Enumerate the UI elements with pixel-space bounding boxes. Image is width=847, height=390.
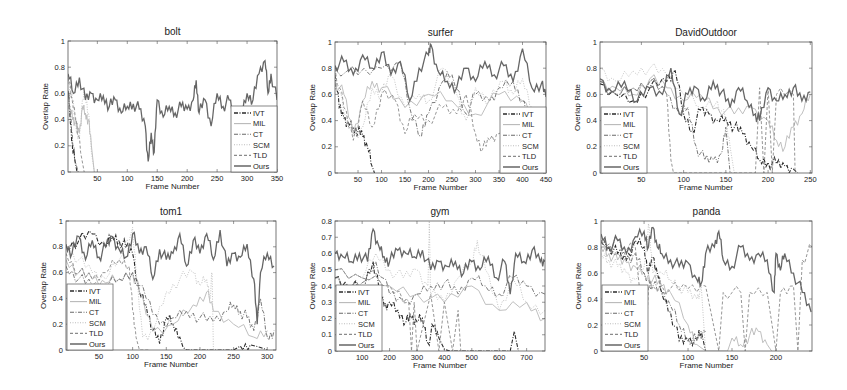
chart-panel-davidoutdoor: DavidOutdoor5010015020025000.20.40.60.81… xyxy=(573,27,817,192)
y-tick-label: 0 xyxy=(328,169,332,178)
x-tick-label: 400 xyxy=(516,175,529,184)
legend-label-scm: SCM xyxy=(253,141,270,150)
y-tick-label: 1 xyxy=(594,217,598,226)
y-axis-label: Overlap Rate xyxy=(574,262,583,310)
x-tick-label: 350 xyxy=(271,174,284,183)
legend: IVTMILCTSCMTLDOurs xyxy=(231,106,277,172)
y-tick-label: 0.8 xyxy=(322,64,332,73)
y-tick-label: 0 xyxy=(328,347,332,356)
legend-label-ivt: IVT xyxy=(89,287,101,296)
y-tick-label: 0.6 xyxy=(587,90,597,99)
x-axis-label: Frame Number xyxy=(144,360,198,369)
y-axis-label: Overlap Rate xyxy=(308,83,317,131)
legend-label-ct: CT xyxy=(522,131,532,140)
legend-label-ivt: IVT xyxy=(358,288,370,297)
y-tick-label: 0.6 xyxy=(588,269,598,278)
x-tick-label: 300 xyxy=(469,175,482,184)
legend-label-tld: TLD xyxy=(624,330,639,339)
x-axis-label: Frame Number xyxy=(680,361,734,370)
x-axis-label: Frame Number xyxy=(413,361,467,370)
y-tick-label: 0.2 xyxy=(322,314,332,323)
y-axis-label: Overlap Rate xyxy=(573,83,582,131)
legend-label-ours: Ours xyxy=(624,341,641,350)
chart-panel-surfer: surfer5010015020025030035040045000.20.40… xyxy=(308,27,552,192)
series-line-tld xyxy=(335,68,527,152)
chart-title: bolt xyxy=(164,26,180,37)
x-axis-label: Frame Number xyxy=(679,183,733,192)
x-tick-label: 350 xyxy=(493,175,506,184)
y-tick-label: 0 xyxy=(59,346,63,355)
y-tick-label: 0.3 xyxy=(322,298,332,307)
legend-label-scm: SCM xyxy=(358,320,375,329)
legend: IVTMILCTSCMTLDOurs xyxy=(67,284,113,350)
legend-label-ours: Ours xyxy=(358,341,375,350)
x-tick-label: 100 xyxy=(121,174,134,183)
legend-label-ivt: IVT xyxy=(522,110,534,119)
y-axis-label: Overlap Rate xyxy=(39,261,48,309)
legend-label-ours: Ours xyxy=(89,340,106,349)
y-tick-label: 0.6 xyxy=(322,249,332,258)
legend-label-ivt: IVT xyxy=(624,288,636,297)
legend-label-mil: MIL xyxy=(253,119,266,128)
y-tick-label: 0.4 xyxy=(53,294,63,303)
x-axis-label: Frame Number xyxy=(146,182,200,191)
legend-label-mil: MIL xyxy=(89,297,102,306)
y-tick-label: 0.5 xyxy=(322,265,332,274)
y-tick-label: 1 xyxy=(59,217,63,226)
legend: IVTMILCTSCMTLDOurs xyxy=(602,285,648,351)
chart-panel-gym: gym10020030040050060070000.10.20.30.40.5… xyxy=(308,206,545,370)
figure-canvas: bolt5010015020025030035000.20.40.60.81Fr… xyxy=(0,0,847,390)
legend-label-ours: Ours xyxy=(253,162,270,171)
legend-label-mil: MIL xyxy=(358,298,371,307)
x-tick-label: 100 xyxy=(375,175,388,184)
legend: IVTMILCTSCMTLDOurs xyxy=(500,107,546,173)
y-tick-label: 1 xyxy=(61,37,65,46)
x-tick-label: 100 xyxy=(126,352,139,361)
legend-label-scm: SCM xyxy=(623,142,640,151)
y-tick-label: 0.6 xyxy=(55,89,65,98)
y-tick-label: 0 xyxy=(61,168,65,177)
x-tick-label: 700 xyxy=(520,353,533,362)
chart-panel-bolt: bolt5010015020025030035000.20.40.60.81Fr… xyxy=(41,26,283,191)
chart-title: DavidOutdoor xyxy=(675,27,737,38)
x-tick-label: 300 xyxy=(261,352,274,361)
x-tick-label: 50 xyxy=(95,352,103,361)
y-tick-label: 0.1 xyxy=(322,330,332,339)
y-tick-label: 0.2 xyxy=(53,320,63,329)
x-tick-label: 100 xyxy=(356,353,369,362)
legend-label-scm: SCM xyxy=(89,319,106,328)
chart-panel-panda: panda5010015020000.20.40.60.81Frame Numb… xyxy=(574,206,812,370)
x-tick-label: 150 xyxy=(399,175,412,184)
y-tick-label: 0.6 xyxy=(322,90,332,99)
y-axis-label: Overlap Rate xyxy=(41,82,50,130)
x-axis-label: Frame Number xyxy=(414,183,468,192)
y-tick-label: 0.2 xyxy=(322,142,332,151)
legend-label-ct: CT xyxy=(624,309,634,318)
x-tick-label: 200 xyxy=(383,353,396,362)
x-tick-label: 600 xyxy=(493,353,506,362)
y-tick-label: 0.4 xyxy=(588,295,598,304)
series-line-ours xyxy=(335,229,545,294)
y-tick-label: 0.7 xyxy=(322,233,332,242)
y-axis-label: Overlap Rate xyxy=(308,262,317,310)
legend-label-ct: CT xyxy=(358,309,368,318)
legend-label-mil: MIL xyxy=(623,120,636,129)
x-tick-label: 500 xyxy=(466,353,479,362)
y-tick-label: 0.8 xyxy=(587,64,597,73)
legend-label-ct: CT xyxy=(623,131,633,140)
y-tick-label: 0.4 xyxy=(587,116,597,125)
legend-label-tld: TLD xyxy=(89,329,104,338)
legend-label-tld: TLD xyxy=(623,152,638,161)
y-tick-label: 0.2 xyxy=(588,321,598,330)
x-tick-label: 250 xyxy=(227,352,240,361)
x-tick-label: 50 xyxy=(354,175,362,184)
legend-label-ivt: IVT xyxy=(253,109,265,118)
y-tick-label: 1 xyxy=(328,38,332,47)
x-tick-label: 50 xyxy=(93,174,101,183)
y-tick-label: 0 xyxy=(594,347,598,356)
legend-label-scm: SCM xyxy=(522,142,539,151)
legend-label-ct: CT xyxy=(89,308,99,317)
x-tick-label: 200 xyxy=(770,353,783,362)
x-tick-label: 250 xyxy=(211,174,224,183)
legend-label-mil: MIL xyxy=(522,120,535,129)
